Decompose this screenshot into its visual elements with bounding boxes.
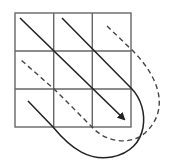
grid-traversal-diagram bbox=[0, 0, 174, 165]
main-diagonal-arrow bbox=[20, 18, 124, 119]
solid-wrap-path bbox=[28, 18, 144, 158]
dashed-wrap-path bbox=[21, 26, 159, 141]
